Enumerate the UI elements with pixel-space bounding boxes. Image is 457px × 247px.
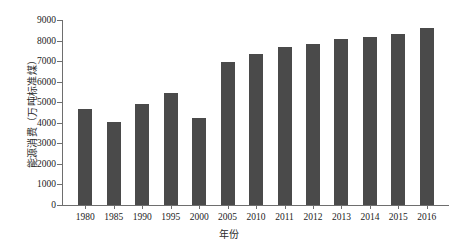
bar[interactable] [334,39,348,206]
y-tick [57,184,62,185]
plot-area: 0100020003000400050006000700080009000 19… [62,20,449,206]
bar-chart: 能源消费（万吨标准煤） 0100020003000400050006000700… [0,0,457,247]
x-tick [313,205,314,209]
bar[interactable] [278,47,292,205]
y-tick [57,143,62,144]
bar[interactable] [420,28,434,205]
x-tick-label: 2016 [407,213,447,223]
x-tick [427,205,428,209]
y-tick-label: 0 [16,201,56,211]
y-tick [57,205,62,206]
y-tick-label: 5000 [16,98,56,108]
bar[interactable] [306,44,320,205]
bar[interactable] [78,109,92,205]
y-tick [57,123,62,124]
bar[interactable] [107,122,121,205]
y-axis-line [62,20,63,206]
y-tick [57,61,62,62]
x-tick [341,205,342,209]
y-tick-label: 6000 [16,78,56,88]
y-tick-label: 2000 [16,160,56,170]
y-tick-label: 9000 [16,16,56,26]
y-tick-label: 7000 [16,57,56,67]
bar[interactable] [363,37,377,205]
bar[interactable] [221,62,235,205]
bar[interactable] [192,118,206,205]
x-tick [228,205,229,209]
x-tick [142,205,143,209]
y-tick [57,20,62,21]
y-tick-label: 8000 [16,37,56,47]
y-tick-label: 1000 [16,180,56,190]
bar[interactable] [164,93,178,205]
x-tick [85,205,86,209]
bar[interactable] [249,54,263,205]
y-tick [57,41,62,42]
y-tick-label: 3000 [16,139,56,149]
x-tick [199,205,200,209]
y-tick [57,82,62,83]
x-tick [114,205,115,209]
x-tick [370,205,371,209]
bar[interactable] [135,104,149,205]
y-tick-label: 4000 [16,119,56,129]
x-tick [256,205,257,209]
bar[interactable] [391,34,405,205]
x-tick [285,205,286,209]
y-tick [57,164,62,165]
x-tick [398,205,399,209]
x-tick [171,205,172,209]
x-axis-title: 年份 [0,226,457,241]
y-tick [57,102,62,103]
